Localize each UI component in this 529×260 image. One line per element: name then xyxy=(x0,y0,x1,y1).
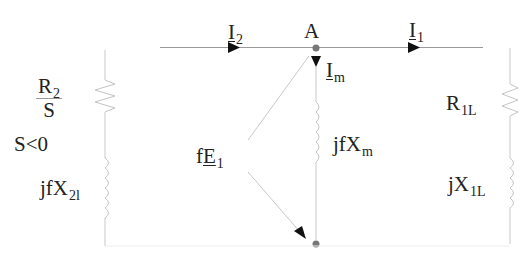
voltage-line-lower xyxy=(248,172,300,232)
jx1l-sub: 1L xyxy=(470,184,486,199)
fe1-label: fE1 xyxy=(196,146,224,167)
fe1-sub: 1 xyxy=(217,156,224,171)
circuit-diagram xyxy=(0,0,529,260)
r2-main: R xyxy=(38,74,52,98)
jfxm-label: jfXm xyxy=(333,134,373,155)
r1l-sub: 1L xyxy=(461,103,477,118)
load-inductor xyxy=(510,158,514,208)
i2-label: I2 xyxy=(228,22,243,43)
jfxm-sub: m xyxy=(362,144,373,159)
jx1l-label: jX1L xyxy=(448,174,486,195)
magnetizing-inductor xyxy=(316,102,319,162)
jx1l-main: jX xyxy=(448,172,469,196)
node-a-label: A xyxy=(304,21,319,42)
fe1-prefix: f xyxy=(196,144,203,168)
im-label: Im xyxy=(326,60,345,81)
i1-label: I1 xyxy=(409,20,424,41)
fe1-main: E xyxy=(203,144,216,168)
r1l-main: R xyxy=(446,91,460,115)
rotor-resistor xyxy=(95,80,115,112)
slip-condition-text: S<0 xyxy=(14,132,48,156)
r2-over-s-label: R2 S xyxy=(36,76,62,121)
jfx2l-sub: 2l xyxy=(69,188,80,203)
i2-sub: 2 xyxy=(236,32,243,47)
s-text: S xyxy=(43,98,55,122)
slip-condition-label: S<0 xyxy=(14,134,48,155)
im-main: I xyxy=(326,58,333,82)
voltage-line-upper xyxy=(248,56,309,140)
im-sub: m xyxy=(334,70,345,85)
load-resistor xyxy=(502,84,518,116)
i1-sub: 1 xyxy=(417,30,424,45)
jfx2l-label: jfX2l xyxy=(40,178,80,199)
i2-main: I xyxy=(228,20,235,44)
voltage-arrow-icon xyxy=(294,226,306,239)
im-arrow-icon xyxy=(311,56,321,67)
s-denominator: S xyxy=(43,100,55,121)
r2-sub: 2 xyxy=(53,86,60,101)
jfxm-main: jfX xyxy=(333,132,361,156)
node-a-text: A xyxy=(304,19,319,43)
i1-main: I xyxy=(409,18,416,42)
r1l-label: R1L xyxy=(446,93,477,114)
jfx2l-main: jfX xyxy=(40,176,68,200)
r2-numerator: R2 xyxy=(38,76,60,97)
node-a-dot xyxy=(313,45,320,52)
rotor-inductor xyxy=(105,158,109,218)
